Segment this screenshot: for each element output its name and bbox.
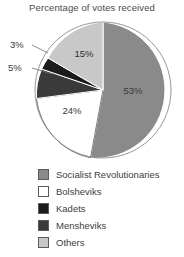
legend-item-kadets: Kadets <box>38 200 184 217</box>
legend-label-others: Others <box>56 237 85 248</box>
legend-label-kadets: Kadets <box>56 203 86 214</box>
legend-swatch-bolsheviks <box>38 186 49 197</box>
legend-swatch-socialist-revolutionaries <box>38 169 49 180</box>
legend-item-socialist-revolutionaries: Socialist Revolutionaries <box>38 166 184 183</box>
legend-item-others: Others <box>38 234 184 251</box>
pie-chart-svg: 53% 24% 15% 3% 5% <box>0 16 184 164</box>
pie-label-mensheviks: 5% <box>8 62 22 73</box>
pie-chart: 53% 24% 15% 3% 5% <box>0 16 184 164</box>
legend-label-socialist-revolutionaries: Socialist Revolutionaries <box>56 169 160 180</box>
legend-label-mensheviks: Mensheviks <box>56 220 106 231</box>
pie-label-bolsheviks: 24% <box>62 105 82 116</box>
pie-label-socialist-revolutionaries: 53% <box>123 85 143 96</box>
leader-line-kadets <box>32 45 48 53</box>
legend-item-mensheviks: Mensheviks <box>38 217 184 234</box>
pie-label-kadets: 3% <box>10 39 24 50</box>
legend-swatch-others <box>38 237 49 248</box>
legend-swatch-kadets <box>38 203 49 214</box>
chart-legend: Socialist Revolutionaries Bolsheviks Kad… <box>38 166 184 251</box>
legend-swatch-mensheviks <box>38 220 49 231</box>
legend-item-bolsheviks: Bolsheviks <box>38 183 184 200</box>
pie-label-others: 15% <box>74 48 94 59</box>
chart-title: Percentage of votes received <box>0 2 184 13</box>
legend-label-bolsheviks: Bolsheviks <box>56 186 101 197</box>
